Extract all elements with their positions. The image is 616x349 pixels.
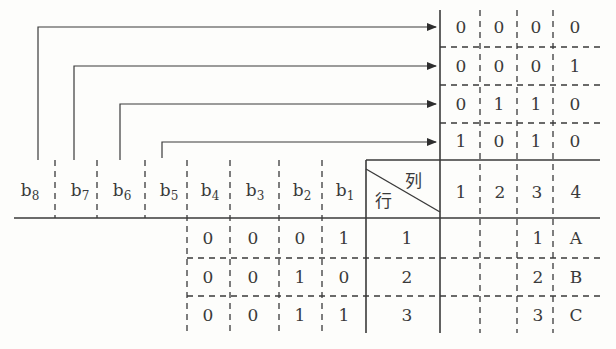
top-cell: 0 bbox=[456, 19, 467, 36]
col3-cell: 3 bbox=[533, 307, 544, 324]
column-header: 4 bbox=[571, 184, 582, 201]
col3-cell: 2 bbox=[533, 269, 544, 286]
col3-cell: 1 bbox=[533, 230, 544, 247]
bit-label-b6: b6 bbox=[113, 182, 132, 202]
top-cell: 0 bbox=[570, 133, 581, 150]
top-cell: 0 bbox=[494, 58, 505, 75]
top-cell: 0 bbox=[456, 58, 467, 75]
arrow-b6 bbox=[120, 104, 436, 160]
top-cell: 0 bbox=[531, 19, 542, 36]
bit-label-b8: b8 bbox=[21, 182, 40, 202]
bit-cell: 0 bbox=[248, 307, 259, 324]
col4-cell: B bbox=[570, 269, 583, 286]
top-cell: 0 bbox=[570, 96, 581, 113]
column-header: 1 bbox=[456, 184, 467, 201]
bit-cell: 0 bbox=[203, 307, 214, 324]
bit-label-b1: b1 bbox=[336, 182, 355, 202]
corner-row-label: 行 bbox=[375, 193, 392, 210]
bit-label-b3: b3 bbox=[246, 182, 265, 202]
bit-cell: 1 bbox=[295, 269, 306, 286]
column-header: 2 bbox=[495, 184, 506, 201]
top-cell: 0 bbox=[570, 19, 581, 36]
column-header: 3 bbox=[532, 184, 543, 201]
col4-cell: C bbox=[569, 307, 582, 324]
bit-cell: 0 bbox=[295, 230, 306, 247]
arrow-b7 bbox=[74, 66, 436, 160]
row-number: 2 bbox=[402, 269, 413, 286]
diagram-lines bbox=[0, 0, 616, 349]
corner-col-label: 列 bbox=[405, 173, 422, 190]
bit-cell: 0 bbox=[203, 230, 214, 247]
top-cell: 0 bbox=[494, 19, 505, 36]
bit-cell: 0 bbox=[339, 269, 350, 286]
top-cell: 0 bbox=[456, 96, 467, 113]
top-cell: 1 bbox=[531, 96, 542, 113]
col4-cell: A bbox=[570, 230, 582, 247]
bit-cell: 1 bbox=[339, 307, 350, 324]
bit-label-b5: b5 bbox=[160, 182, 179, 202]
bit-cell: 1 bbox=[295, 307, 306, 324]
bit-label-b7: b7 bbox=[71, 182, 90, 202]
top-cell: 1 bbox=[531, 133, 542, 150]
arrow-b5 bbox=[162, 142, 436, 158]
bit-cell: 1 bbox=[339, 230, 350, 247]
top-cell: 1 bbox=[570, 58, 581, 75]
top-cell: 1 bbox=[456, 133, 467, 150]
bit-cell: 0 bbox=[203, 269, 214, 286]
top-cell: 0 bbox=[531, 58, 542, 75]
bit-label-b2: b2 bbox=[293, 182, 312, 202]
bit-cell: 0 bbox=[248, 230, 259, 247]
bit-cell: 0 bbox=[248, 269, 259, 286]
arrow-b8 bbox=[38, 27, 436, 160]
row-number: 3 bbox=[402, 307, 413, 324]
row-number: 1 bbox=[402, 230, 413, 247]
bit-label-b4: b4 bbox=[201, 182, 220, 202]
encoding-diagram: 0 0 0 0 0 0 0 1 0 1 1 0 1 0 1 0 b8 b7 b6… bbox=[0, 0, 616, 349]
top-cell: 0 bbox=[494, 133, 505, 150]
top-cell: 1 bbox=[494, 96, 505, 113]
